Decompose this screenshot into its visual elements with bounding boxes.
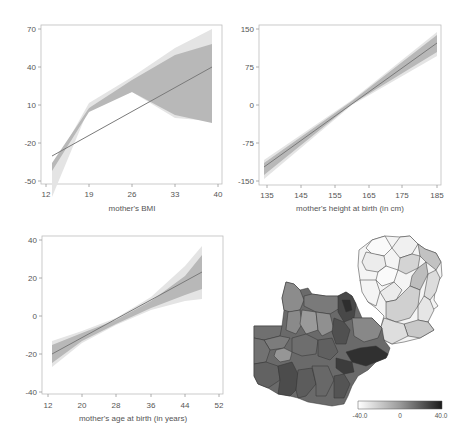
y-tick-label: -20 <box>25 350 37 359</box>
y-tick-label: -20 <box>24 139 36 148</box>
x-tick-label: 165 <box>362 191 376 200</box>
colorbar <box>358 401 442 409</box>
x-tick-label: 40 <box>214 190 223 199</box>
map-district <box>404 320 434 338</box>
x-axis <box>46 184 218 187</box>
x-tick-label: 175 <box>395 191 409 200</box>
y-tick-label: 40 <box>27 63 36 72</box>
x-tick-label: 26 <box>128 190 137 199</box>
x-tick-label: 52 <box>215 401 224 410</box>
map-district <box>360 280 380 306</box>
map-district <box>282 282 304 312</box>
panel-age: 40 20 0 -20 -40 12 20 28 36 44 52 mother… <box>25 236 224 423</box>
y-axis <box>39 240 42 392</box>
y-tick-label: 0 <box>33 312 38 321</box>
x-tick-label: 185 <box>430 191 444 200</box>
y-tick-label: -150 <box>238 177 255 186</box>
y-tick-label: 75 <box>245 63 254 72</box>
x-tick-label: 19 <box>85 190 94 199</box>
x-tick-label: 33 <box>171 190 180 199</box>
y-tick-label: -75 <box>242 139 254 148</box>
colorbar-max-label: 40.0 <box>435 412 448 419</box>
figure: 70 40 10 -20 -50 12 19 26 33 40 mother's… <box>0 0 461 441</box>
x-axis-title: mother's age at birth (in years) <box>79 414 188 423</box>
y-tick-label: 20 <box>28 274 37 283</box>
panel-bmi: 70 40 10 -20 -50 12 19 26 33 40 mother's… <box>24 25 223 213</box>
y-tick-label: 0 <box>250 101 255 110</box>
x-tick-label: 36 <box>147 401 156 410</box>
colorbar-mid-label: 0 <box>398 412 402 419</box>
y-tick-label: 70 <box>27 25 36 34</box>
y-tick-label: -40 <box>25 388 37 397</box>
y-tick-label: -50 <box>24 177 36 186</box>
x-tick-label: 145 <box>294 191 308 200</box>
y-tick-label: 10 <box>27 101 36 110</box>
x-tick-label: 44 <box>181 401 190 410</box>
x-axis-title: mother's BMI <box>109 204 156 213</box>
x-axis <box>48 394 219 397</box>
panel-height: 150 75 0 -75 -150 135 145 155 165 175 18… <box>238 25 444 213</box>
y-tick-label: 150 <box>241 25 255 34</box>
x-tick-label: 28 <box>112 401 121 410</box>
panel-map <box>254 236 442 409</box>
x-axis <box>267 185 437 188</box>
x-tick-label: 20 <box>78 401 87 410</box>
y-tick-label: 40 <box>28 236 37 245</box>
y-axis <box>38 29 41 181</box>
y-axis <box>256 29 259 181</box>
x-tick-label: 12 <box>42 190 51 199</box>
colorbar-min-label: -40.0 <box>353 412 368 419</box>
x-tick-label: 12 <box>44 401 53 410</box>
x-tick-label: 135 <box>260 191 274 200</box>
x-tick-label: 155 <box>328 191 342 200</box>
x-axis-title: mother's height at birth (in cm) <box>296 204 404 213</box>
